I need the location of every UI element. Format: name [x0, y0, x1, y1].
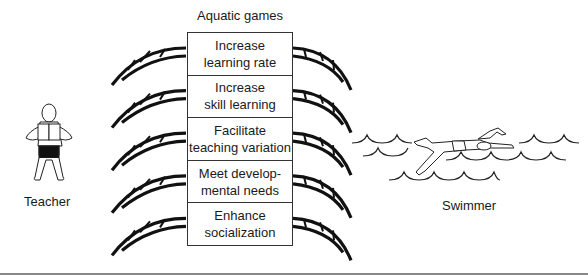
bottom-divider — [0, 273, 588, 275]
left-bridges — [112, 48, 186, 255]
benefit-box: Increaseskill learning — [188, 76, 292, 119]
diagram-art — [0, 0, 588, 276]
diagram-title: Aquatic games — [187, 8, 293, 23]
right-bridges — [293, 48, 351, 260]
benefit-box: Meet develop-mental needs — [188, 161, 292, 204]
swimmer-label: Swimmer — [442, 198, 496, 213]
benefits-stack: Increaselearning rate Increaseskill lear… — [187, 32, 293, 246]
teacher-figure-icon — [26, 104, 72, 180]
benefit-line1: Enhance — [214, 208, 265, 223]
benefit-line1: Increase — [215, 38, 265, 53]
benefit-line2: learning rate — [204, 55, 276, 70]
swimmer-figure-icon — [414, 128, 514, 175]
benefit-line2: skill learning — [204, 97, 276, 112]
benefit-line1: Increase — [215, 80, 265, 95]
benefit-line2: mental needs — [201, 183, 279, 198]
benefit-line1: Meet develop- — [199, 166, 281, 181]
benefit-line2: teaching variation — [189, 140, 291, 155]
benefit-line2: socialization — [205, 225, 276, 240]
benefit-box: Enhancesocialization — [188, 203, 292, 245]
teacher-label: Teacher — [24, 194, 70, 209]
benefit-box: Facilitateteaching variation — [188, 118, 292, 161]
benefit-box: Increaselearning rate — [188, 33, 292, 76]
benefit-line1: Facilitate — [214, 123, 266, 138]
